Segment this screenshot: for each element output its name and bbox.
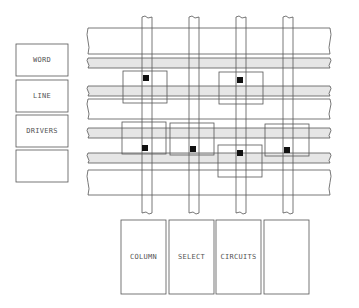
word-line-driver-label-1: WORD — [16, 56, 68, 64]
word-line-driver-box — [16, 150, 68, 182]
wide-band — [87, 99, 331, 119]
shaded-word-line — [87, 58, 331, 68]
contact-square — [190, 146, 196, 152]
memory-array-diagram — [0, 0, 359, 308]
shaded-word-line — [87, 128, 331, 138]
shaded-word-line — [87, 86, 331, 96]
wide-band — [87, 170, 331, 195]
word-line-bands — [87, 28, 331, 195]
word-line-driver-label-2: LINE — [16, 92, 68, 100]
column-select-label-2: SELECT — [169, 253, 214, 261]
wide-band — [87, 28, 331, 54]
column-select-label-3: CIRCUITS — [216, 253, 261, 261]
contact-square — [142, 145, 148, 151]
contact-square — [237, 150, 243, 156]
contact-square — [284, 147, 290, 153]
shaded-word-line — [87, 153, 331, 163]
column-select-label-1: COLUMN — [121, 253, 166, 261]
contact-square — [143, 75, 149, 81]
column-select-box — [264, 220, 309, 294]
word-line-driver-label-3: DRIVERS — [16, 127, 68, 135]
contact-square — [237, 77, 243, 83]
